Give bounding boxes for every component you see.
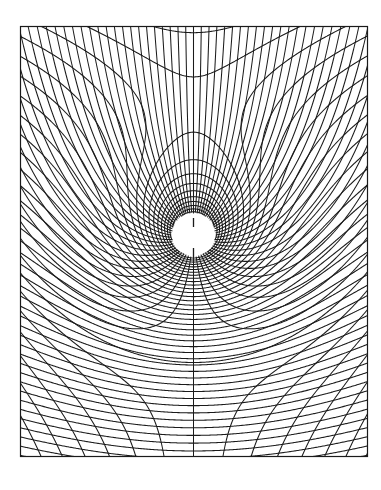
flow-net-grid xyxy=(0,0,381,490)
flow-net-diagram: Orthogonal flow-net grid around a circul… xyxy=(0,0,381,490)
